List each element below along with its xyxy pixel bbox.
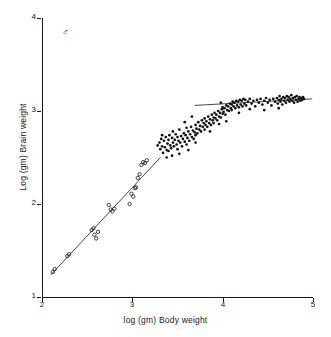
plot-data-layer [0, 0, 331, 337]
data-point [268, 98, 271, 101]
data-point [165, 156, 168, 159]
data-point [200, 130, 203, 133]
data-point [220, 116, 223, 119]
data-point [93, 233, 96, 236]
series-small-specimens [51, 159, 148, 274]
data-point [138, 173, 141, 176]
data-point [230, 109, 233, 112]
data-point [293, 101, 296, 104]
data-point [136, 176, 139, 179]
data-point [290, 94, 293, 97]
data-point [254, 105, 257, 108]
data-point [227, 105, 230, 108]
data-point [285, 101, 288, 104]
data-point [203, 128, 206, 131]
data-point [166, 142, 169, 145]
data-point [265, 97, 268, 100]
data-point [185, 126, 188, 129]
data-point [281, 103, 284, 106]
y-axis-title: Log (gm) Brain weight [18, 72, 28, 222]
data-point [211, 119, 214, 122]
fit-lines-group [51, 99, 312, 275]
data-point [132, 195, 135, 198]
data-point [263, 99, 266, 102]
data-point [238, 106, 241, 109]
data-point [190, 125, 193, 128]
data-point [172, 141, 175, 144]
data-point [95, 237, 98, 240]
data-point [194, 141, 197, 144]
data-point [220, 101, 223, 104]
allometric-slope-line [51, 158, 160, 275]
x-axis-title: log (gm) Body weight [0, 315, 331, 325]
data-point [205, 120, 208, 123]
data-point [218, 123, 221, 126]
data-point [257, 101, 260, 104]
data-point [107, 203, 110, 206]
data-point [173, 138, 176, 141]
data-point [272, 98, 275, 101]
data-point [176, 136, 179, 139]
data-point [163, 139, 166, 142]
data-point [195, 127, 198, 130]
data-point [210, 124, 213, 127]
data-point [167, 138, 170, 141]
data-point [303, 98, 306, 101]
data-point [203, 117, 206, 120]
data-point [248, 108, 251, 111]
data-point [178, 128, 181, 131]
data-point [160, 138, 163, 141]
data-point [201, 119, 204, 122]
data-point [172, 130, 175, 133]
data-point [192, 138, 195, 141]
data-point [182, 138, 185, 141]
data-point [197, 121, 200, 124]
data-point [234, 107, 237, 110]
data-point [225, 120, 228, 123]
data-point [238, 112, 241, 115]
data-point [164, 146, 167, 149]
data-point [209, 118, 212, 121]
data-point [168, 134, 171, 137]
data-point [191, 115, 194, 118]
data-point [277, 107, 280, 110]
data-point [216, 119, 219, 122]
data-point [212, 122, 215, 125]
data-point [187, 149, 190, 152]
data-point [156, 144, 159, 147]
data-point [179, 141, 182, 144]
data-point [145, 159, 148, 162]
data-point [171, 137, 174, 140]
data-point [181, 145, 184, 148]
data-point [256, 98, 259, 101]
data-point [173, 145, 176, 148]
data-point [158, 141, 161, 144]
data-point [174, 133, 177, 136]
data-point [128, 202, 131, 205]
data-point [259, 98, 262, 101]
data-point [199, 125, 202, 128]
data-point [175, 143, 178, 146]
data-point [223, 107, 226, 110]
data-point [188, 139, 191, 142]
data-point [266, 101, 269, 104]
data-point [295, 95, 298, 98]
data-point [274, 100, 277, 103]
data-point [228, 110, 231, 113]
data-point [169, 144, 172, 147]
data-point [187, 130, 190, 133]
data-point [186, 137, 189, 140]
data-point [252, 99, 255, 102]
data-point [201, 125, 204, 128]
data-point [171, 154, 174, 157]
data-point [183, 121, 186, 124]
data-point [189, 133, 192, 136]
data-point [193, 131, 196, 134]
data-point [270, 104, 273, 107]
data-point [224, 113, 227, 116]
data-point [296, 100, 299, 103]
data-point [159, 148, 162, 151]
data-point [183, 140, 186, 143]
data-point [161, 145, 164, 148]
data-point [244, 98, 247, 101]
